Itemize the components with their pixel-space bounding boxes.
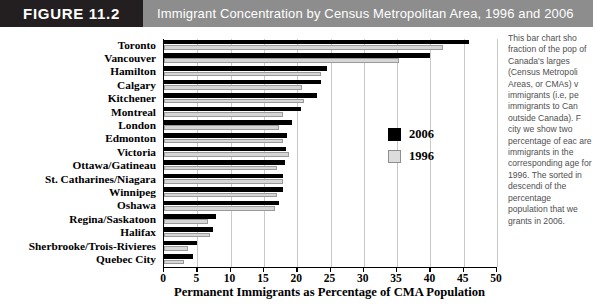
legend-item-1996: 1996: [388, 149, 434, 164]
bar-toronto-2006: [164, 40, 469, 45]
bar-row: [164, 240, 497, 253]
bar-row: [164, 173, 497, 186]
y-label-regina-saskatoon: Regina/Saskatoon: [69, 214, 156, 225]
bar-row: [164, 146, 497, 159]
bar-sherbrooke-trois-rivieres-1996: [164, 246, 188, 251]
y-label-st-catharines-niagara: St. Catharines/Niagara: [45, 174, 156, 185]
y-label-calgary: Calgary: [117, 80, 156, 91]
bar-row: [164, 106, 497, 119]
y-label-kitchener: Kitchener: [108, 93, 156, 104]
bar-quebec-city-2006: [164, 254, 193, 259]
y-label-ottawa-gatineau: Ottawa/Gatineau: [73, 160, 156, 171]
bar-row: [164, 227, 497, 240]
x-tick-label-0: 0: [160, 272, 166, 284]
bar-toronto-1996: [164, 45, 443, 50]
bar-sherbrooke-trois-rivieres-2006: [164, 241, 197, 246]
x-tick-label-50: 50: [490, 272, 502, 284]
plot-region: [163, 39, 497, 268]
y-label-halifax: Halifax: [120, 227, 156, 238]
y-label-sherbrooke-trois-rivieres: Sherbrooke/Trois-Rivieres: [29, 241, 156, 252]
bar-st-catharines-niagara-1996: [164, 179, 283, 184]
y-label-london: London: [118, 120, 156, 131]
y-label-edmonton: Edmonton: [105, 133, 156, 144]
bar-london-1996: [164, 125, 279, 130]
bar-winnipeg-1996: [164, 193, 277, 198]
x-tick-label-40: 40: [424, 272, 436, 284]
y-label-vancouver: Vancouver: [104, 53, 156, 64]
x-axis-label: Permanent Immigrants as Percentage of CM…: [163, 285, 496, 300]
bar-ottawa-gatineau-2006: [164, 160, 285, 165]
x-axis-ticks: 05101520253035404550: [163, 268, 496, 284]
bar-victoria-1996: [164, 152, 289, 157]
bar-oshawa-1996: [164, 206, 275, 211]
x-tick-label-25: 25: [324, 272, 336, 284]
bar-victoria-2006: [164, 147, 286, 152]
y-label-hamilton: Hamilton: [110, 66, 156, 77]
bar-edmonton-2006: [164, 133, 287, 138]
y-axis-category-labels: TorontoVancouverHamiltonCalgaryKitchener…: [0, 39, 160, 267]
bar-hamilton-1996: [164, 72, 321, 77]
legend-label-2006: 2006: [409, 127, 434, 142]
bar-vancouver-1996: [164, 58, 399, 63]
chart-area: TorontoVancouverHamiltonCalgaryKitchener…: [0, 27, 505, 307]
bar-row: [164, 133, 497, 146]
x-tick-label-20: 20: [290, 272, 302, 284]
x-tick-label-45: 45: [457, 272, 469, 284]
bar-row: [164, 79, 497, 92]
x-tick-label-10: 10: [224, 272, 236, 284]
bar-ottawa-gatineau-1996: [164, 166, 277, 171]
bar-regina-saskatoon-2006: [164, 214, 216, 219]
bar-kitchener-1996: [164, 99, 304, 104]
figure-title: Immigrant Concentration by Census Metrop…: [143, 0, 593, 27]
bar-calgary-2006: [164, 80, 321, 85]
legend-label-1996: 1996: [409, 149, 434, 164]
bar-montreal-1996: [164, 112, 283, 117]
bar-row: [164, 254, 497, 267]
bar-quebec-city-1996: [164, 260, 184, 265]
bar-row: [164, 119, 497, 132]
x-tick-label-30: 30: [357, 272, 369, 284]
bar-hamilton-2006: [164, 66, 327, 71]
y-label-victoria: Victoria: [117, 147, 156, 158]
gridline: [497, 39, 498, 267]
y-label-toronto: Toronto: [118, 40, 156, 51]
x-tick-label-5: 5: [193, 272, 199, 284]
x-tick-label-35: 35: [390, 272, 402, 284]
black-square-icon: [388, 128, 401, 141]
x-tick-label-15: 15: [257, 272, 269, 284]
chart-legend: 20061996: [388, 127, 434, 171]
bar-row: [164, 39, 497, 52]
bar-halifax-2006: [164, 227, 213, 232]
bar-winnipeg-2006: [164, 187, 283, 192]
bar-vancouver-2006: [164, 53, 430, 58]
bar-regina-saskatoon-1996: [164, 219, 208, 224]
bar-row: [164, 200, 497, 213]
y-label-quebec-city: Quebec City: [96, 254, 156, 265]
bar-rows: [164, 39, 497, 267]
figure-header: FIGURE 11.2 Immigrant Concentration by C…: [0, 0, 593, 27]
figure-number-tag: FIGURE 11.2: [0, 0, 143, 27]
y-label-montreal: Montreal: [111, 107, 156, 118]
y-label-winnipeg: Winnipeg: [109, 187, 156, 198]
bar-row: [164, 213, 497, 226]
bar-row: [164, 52, 497, 65]
bar-london-2006: [164, 120, 292, 125]
bar-row: [164, 187, 497, 200]
legend-item-2006: 2006: [388, 127, 434, 142]
y-label-oshawa: Oshawa: [117, 200, 156, 211]
bar-row: [164, 160, 497, 173]
gray-square-icon: [388, 150, 401, 163]
bar-row: [164, 66, 497, 79]
bar-oshawa-2006: [164, 201, 279, 206]
side-note-text: This bar chart sho fraction of the pop o…: [508, 33, 593, 283]
bar-calgary-1996: [164, 85, 302, 90]
bar-row: [164, 93, 497, 106]
bar-halifax-1996: [164, 233, 210, 238]
bar-montreal-2006: [164, 107, 301, 112]
bar-edmonton-1996: [164, 139, 283, 144]
bar-kitchener-2006: [164, 93, 317, 98]
bar-st-catharines-niagara-2006: [164, 174, 283, 179]
